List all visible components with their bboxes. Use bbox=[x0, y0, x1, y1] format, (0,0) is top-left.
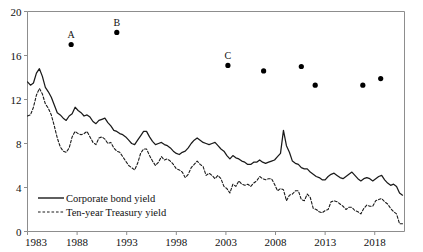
data-point-marker bbox=[69, 42, 74, 47]
data-point-marker bbox=[261, 68, 266, 73]
x-tick-label: 2008 bbox=[265, 236, 288, 248]
marker-label-b: B bbox=[113, 17, 120, 28]
x-tick-label: 2013 bbox=[314, 236, 337, 248]
data-point-marker bbox=[378, 76, 383, 81]
chart-legend: Corporate bond yieldTen-year Treasury yi… bbox=[38, 193, 167, 218]
y-tick-label: 8 bbox=[16, 138, 22, 150]
x-tick-label: 1988 bbox=[66, 236, 89, 248]
data-point-marker bbox=[114, 30, 119, 35]
yield-chart: 048121620 198319881993199820032008201320… bbox=[0, 0, 423, 252]
y-tick-label: 12 bbox=[11, 94, 22, 106]
y-tick-label: 16 bbox=[11, 50, 23, 62]
x-tick-label: 2003 bbox=[215, 236, 238, 248]
legend-label-2: Ten-year Treasury yield bbox=[66, 207, 167, 218]
legend-label-1: Corporate bond yield bbox=[66, 193, 156, 204]
y-tick-label: 20 bbox=[11, 6, 23, 18]
data-point-marker bbox=[225, 63, 230, 68]
marker-label-a: A bbox=[68, 29, 76, 40]
x-tick-label: 1993 bbox=[116, 236, 139, 248]
x-axis: 19831988199319982003200820132018 bbox=[25, 232, 386, 248]
data-point-marker bbox=[299, 64, 304, 69]
x-tick-label: 2018 bbox=[364, 236, 387, 248]
x-tick-label: 1998 bbox=[165, 236, 188, 248]
y-tick-label: 4 bbox=[16, 182, 22, 194]
y-tick-label: 0 bbox=[16, 226, 22, 238]
y-axis: 048121620 bbox=[11, 6, 28, 238]
marker-label-c: C bbox=[225, 50, 232, 61]
scatter-markers: ABC bbox=[68, 17, 384, 88]
data-point-marker bbox=[313, 83, 318, 88]
x-tick-label: 1983 bbox=[25, 236, 48, 248]
series-line-1 bbox=[28, 69, 403, 196]
data-point-marker bbox=[360, 83, 365, 88]
chart-canvas: 048121620 198319881993199820032008201320… bbox=[0, 0, 423, 252]
